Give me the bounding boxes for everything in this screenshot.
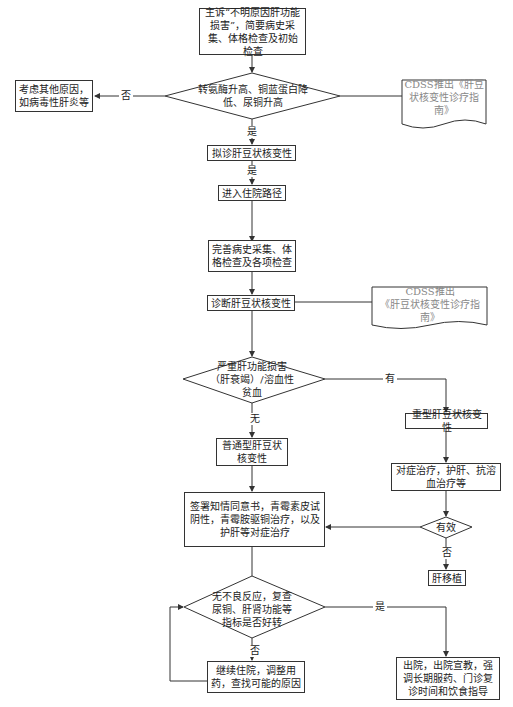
complete-exam-box: 完善病史采集、体格检查及各项检查 [208,240,296,272]
no-label-1: 否 [119,90,133,102]
yes-label-severe: 有 [383,373,397,385]
penicillamine-treatment-box: 签署知情同意书，青霉素皮试阴性，青霉胺驱铜治疗，以及护肝等对症治疗 [184,492,325,547]
other-causes-box: 考虑其他原因，如病毒性肝炎等 [15,80,93,112]
cdss-line-2: 《肝豆状核变性诊疗指南》 [374,298,486,324]
no-label-effective: 否 [440,547,454,559]
admission-box: 进入住院路径 [218,185,286,201]
transplant-box: 肝移植 [428,570,466,586]
no-label-severe: 无 [248,413,262,425]
normal-type-box: 普通型肝豆状核变性 [216,438,288,466]
diagnosis-box: 诊断肝豆状核变性 [207,295,295,311]
cdss-line-1: CDSS推出 [405,285,454,298]
symptomatic-treatment-box: 对症治疗，护肝、抗溶血治疗等 [391,463,501,491]
cdss-guideline-note-1: CDSS推出《肝豆状核变性诊疗指南》 [404,83,484,111]
yes-label-2: 是 [245,165,259,177]
effective-decision: 有效 [428,521,464,534]
suspected-diagnosis-box: 拟诊肝豆状核变性 [207,145,296,161]
decision-lab-results: 转氨酶升高、铜蓝蛋白降低、尿铜升高 [195,83,310,109]
decision-improvement: 无不良反应，复查尿铜、肝肾功能等指标是否好转 [212,589,292,629]
start-box: 主诉“不明原因肝功能损害”，简要病史采集、体格检查及初始检查 [199,8,306,55]
no-label-improved: 否 [248,645,262,657]
decision-severity: 严重肝功能损害（肝衰竭）/溶血性贫血 [208,366,296,392]
severe-type-box: 重型肝豆状核变性 [405,413,488,429]
discharge-box: 出院，出院宣教，强调长期服药、门诊复诊时间和饮食指导 [396,657,500,700]
yes-label-improved: 是 [373,601,387,613]
continue-hospitalization-box: 继续住院，调整用药，查找可能的原因 [207,661,305,693]
cdss-guideline-note-2: CDSS推出 《肝豆状核变性诊疗指南》 [374,290,486,318]
yes-label-1: 是 [245,126,259,138]
